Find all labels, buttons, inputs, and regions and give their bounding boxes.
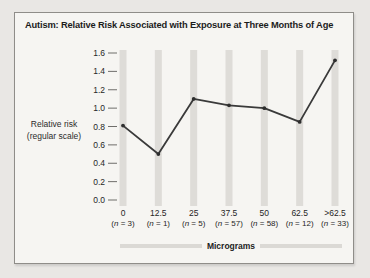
x-n-label: (n = 1) <box>147 219 171 228</box>
x-tick-label: 0 <box>121 208 126 218</box>
x-tick-label: >62.5 <box>324 208 346 218</box>
x-n-label: (n = 12) <box>286 219 314 228</box>
x-n-label: (n = 57) <box>215 219 243 228</box>
y-tick-label: 0.6 <box>93 140 105 150</box>
grid-band <box>296 50 303 206</box>
x-n-label: (n = 3) <box>111 219 135 228</box>
grid-band <box>261 50 268 206</box>
x-axis-title-row: Micrograms <box>120 241 342 251</box>
data-point <box>333 58 337 62</box>
x-tick-label: 37.5 <box>221 208 238 218</box>
x-tick-label: 25 <box>189 208 199 218</box>
grid-band <box>155 50 162 206</box>
y-tick-label: 1.4 <box>93 66 105 76</box>
y-tick-label: 0.0 <box>93 195 105 205</box>
x-n-label: (n = 58) <box>250 219 278 228</box>
y-tick-label: 1.0 <box>93 103 105 113</box>
chart-panel: Autism: Relative Risk Associated with Ex… <box>14 12 354 264</box>
data-point <box>298 120 302 124</box>
data-point <box>192 97 196 101</box>
y-tick-label: 1.6 <box>93 48 105 58</box>
plot-area: 0.00.20.40.60.81.01.21.41.60(n = 3)12.5(… <box>15 13 353 263</box>
data-point <box>121 124 125 128</box>
grid-band <box>190 50 197 206</box>
data-point <box>156 152 160 156</box>
y-tick-label: 0.4 <box>93 158 105 168</box>
data-point <box>227 103 231 107</box>
x-tick-label: 12.5 <box>150 208 167 218</box>
x-n-label: (n = 33) <box>321 219 349 228</box>
x-n-label: (n = 5) <box>182 219 206 228</box>
figure-background: Autism: Relative Risk Associated with Ex… <box>0 0 370 278</box>
grid-band <box>331 50 338 206</box>
x-tick-label: 62.5 <box>291 208 308 218</box>
y-tick-label: 1.2 <box>93 85 105 95</box>
y-tick-label: 0.8 <box>93 122 105 132</box>
x-tick-label: 50 <box>260 208 270 218</box>
data-point <box>262 106 266 110</box>
y-tick-label: 0.2 <box>93 177 105 187</box>
grid-band <box>225 50 232 206</box>
x-axis-title: Micrograms <box>202 241 260 251</box>
